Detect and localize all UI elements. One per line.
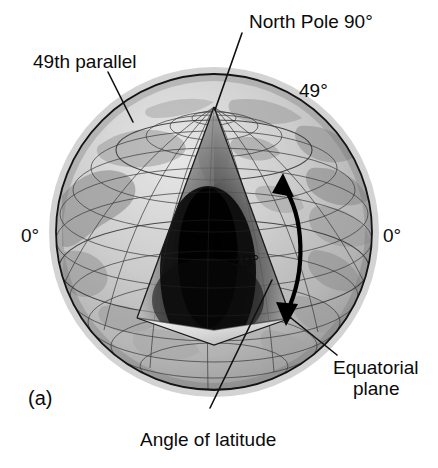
label-equator-left: 0° <box>21 225 39 246</box>
label-equatorial-plane-line2: plane <box>353 378 400 399</box>
label-north-pole: North Pole 90° <box>249 11 373 32</box>
label-49-degrees-inner: 49° <box>232 252 259 272</box>
panel-letter: (a) <box>28 387 52 409</box>
label-49th-parallel: 49th parallel <box>33 51 137 72</box>
globe <box>56 74 372 390</box>
label-equatorial-plane-line1: Equatorial <box>333 357 419 378</box>
latitude-globe-figure: North Pole 90° 49th parallel 49° 49° 0° … <box>0 0 438 468</box>
label-angle-of-latitude: Angle of latitude <box>140 429 276 450</box>
label-equator-right: 0° <box>383 225 401 246</box>
label-49-degrees-outer: 49° <box>299 80 328 101</box>
